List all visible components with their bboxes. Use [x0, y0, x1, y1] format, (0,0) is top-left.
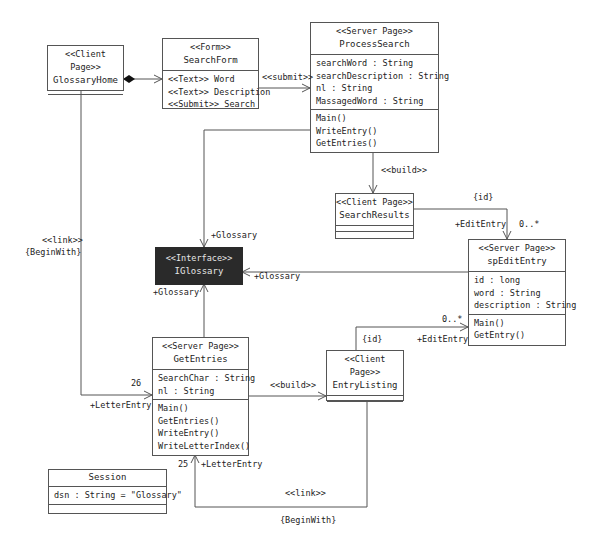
class-process-search[interactable]: <<Server Page>> ProcessSearch searchWord…	[310, 22, 439, 153]
attribute: nl : String	[316, 82, 433, 95]
class-name: EntryListing	[327, 379, 403, 392]
attribute: word : String	[474, 287, 560, 300]
operations-section: Main() WriteEntry() GetEntries()	[311, 110, 438, 152]
label-glossary-role: +Glossary	[254, 271, 300, 282]
class-search-form[interactable]: <<Form>> SearchForm <<Text>> Word <<Text…	[162, 38, 259, 109]
label-multiplicity: 26	[131, 378, 141, 389]
label-id: {id}	[473, 192, 493, 203]
stereotype: <<Interface>>	[156, 252, 242, 265]
attribute: <<Text>> Word	[168, 73, 253, 86]
label-begin-with: {BeginWith}	[25, 247, 81, 258]
label-multiplicity: 0..*	[519, 219, 539, 230]
class-name: GlossaryHome	[48, 74, 123, 87]
label-multiplicity: 25	[178, 459, 188, 470]
class-session[interactable]: Session dsn : String = "Glossary"	[48, 469, 167, 514]
attribute: <<Text>> Description	[168, 86, 253, 99]
class-name: GetEntries	[153, 353, 248, 366]
attributes-section: SearchChar : String nl : String	[153, 370, 248, 400]
stereotype: <<Server Page>>	[469, 242, 565, 255]
operation: Main()	[474, 317, 560, 330]
stereotype: <<Form>>	[163, 41, 258, 54]
attribute: <<Submit>> Search	[168, 98, 253, 111]
class-name: Session	[49, 471, 166, 484]
attributes-section: searchWord : String searchDescription : …	[311, 55, 438, 110]
stereotype: <<Server Page>>	[311, 25, 438, 38]
label-build: <<build>>	[270, 380, 316, 391]
operation: WriteEntry()	[316, 125, 433, 138]
class-get-entries[interactable]: <<Server Page>> GetEntries SearchChar : …	[152, 337, 249, 456]
composition-diamond-icon	[123, 75, 135, 83]
operation: Main()	[158, 402, 243, 415]
operations-section: Main() GetEntry()	[469, 315, 565, 344]
label-letter-entry: +LetterEntry	[201, 459, 262, 470]
operations-section	[49, 505, 166, 514]
operation: Main()	[316, 112, 433, 125]
class-search-results[interactable]: <<Client Page>> SearchResults	[335, 193, 414, 239]
label-glossary-role: +Glossary	[153, 287, 199, 298]
operations-section	[327, 402, 403, 414]
label-link: <<link>>	[42, 235, 83, 246]
class-sp-edit-entry[interactable]: <<Server Page>> spEditEntry id : long wo…	[468, 239, 566, 346]
class-name: SearchResults	[336, 209, 413, 222]
stereotype: <<Client Page>>	[48, 48, 123, 74]
class-name: spEditEntry	[469, 255, 565, 268]
operations-section	[48, 95, 123, 103]
label-id: {id}	[362, 334, 382, 345]
attribute: searchWord : String	[316, 57, 433, 70]
label-edit-entry: +EditEntry	[417, 334, 468, 345]
operation: GetEntries()	[316, 137, 433, 150]
label-begin-with: {BeginWith}	[280, 515, 336, 526]
label-link: <<link>>	[285, 488, 326, 499]
operations-section: Main() GetEntries() WriteEntry() WriteLe…	[153, 400, 248, 454]
attribute: nl : String	[158, 385, 243, 398]
attributes-section: id : long word : String description : St…	[469, 272, 565, 315]
attribute: searchDescription : String	[316, 70, 433, 83]
operation: WriteLetterIndex()	[158, 440, 243, 453]
label-submit: <<submit>>	[262, 72, 313, 83]
label-glossary-role: +Glossary	[211, 230, 257, 241]
stereotype: <<Client Page>>	[336, 196, 413, 209]
attribute: SearchChar : String	[158, 372, 243, 385]
class-glossary-home[interactable]: <<Client Page>> GlossaryHome	[47, 45, 124, 91]
interface-iglossary[interactable]: <<Interface>> IGlossary	[155, 247, 243, 285]
attributes-section: <<Text>> Word <<Text>> Description <<Sub…	[163, 71, 258, 113]
label-edit-entry: +EditEntry	[455, 219, 506, 230]
attributes-section: dsn : String = "Glossary"	[49, 487, 166, 505]
operation: WriteEntry()	[158, 427, 243, 440]
stereotype: <<Server Page>>	[153, 340, 248, 353]
attribute: dsn : String = "Glossary"	[54, 489, 161, 502]
label-letter-entry: +LetterEntry	[90, 400, 151, 411]
attribute: MassagedWord : String	[316, 95, 433, 108]
operation: GetEntries()	[158, 415, 243, 428]
class-entry-listing[interactable]: <<Client Page>> EntryListing	[326, 350, 404, 401]
label-build: <<build>>	[381, 165, 427, 176]
attribute: description : String	[474, 299, 560, 312]
label-multiplicity: 0..*	[442, 314, 462, 325]
attribute: id : long	[474, 274, 560, 287]
operations-section	[336, 232, 413, 240]
stereotype: <<Client Page>>	[327, 353, 403, 379]
class-name: IGlossary	[156, 265, 242, 278]
operation: GetEntry()	[474, 329, 560, 342]
class-name: SearchForm	[163, 54, 258, 67]
class-name: ProcessSearch	[311, 38, 438, 51]
